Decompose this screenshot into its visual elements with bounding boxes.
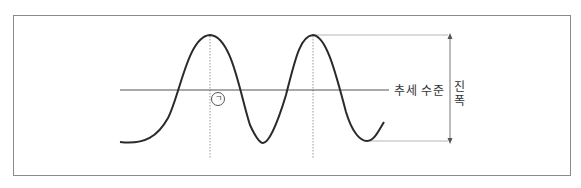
amplitude-label: 진 폭 <box>452 80 466 108</box>
cycle-wave <box>120 35 384 143</box>
circled-marker: ㄱ <box>211 92 225 106</box>
arrow-head-up-icon <box>448 33 453 39</box>
wave-diagram <box>0 0 581 188</box>
trend-level-label: 추세 수준 <box>394 81 444 98</box>
arrow-head-down-icon <box>448 138 453 144</box>
amplitude-label-char: 폭 <box>452 94 466 108</box>
amplitude-label-char: 진 <box>452 80 466 94</box>
